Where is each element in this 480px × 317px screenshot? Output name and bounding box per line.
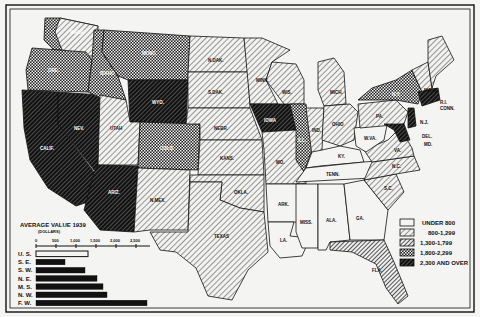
svg-text:CALIF.: CALIF.	[40, 146, 54, 151]
svg-text:IND.: IND.	[312, 128, 321, 133]
legend-swatch-1300-1799	[400, 239, 414, 246]
legend-label: 1,300-1,799	[420, 240, 453, 246]
svg-text:PA.: PA.	[376, 114, 383, 119]
state-ndak	[188, 36, 248, 72]
legend-swatch-2300-over	[400, 259, 414, 266]
farm-value-map: WASH. ORE. CALIF. NEV. IDAHO MONT. WYO. …	[0, 0, 480, 317]
legend-swatch-1800-2299	[400, 249, 414, 256]
svg-text:1,000: 1,000	[70, 238, 81, 243]
svg-text:GA.: GA.	[356, 216, 364, 221]
legend-swatch-under-800	[400, 219, 414, 226]
bar	[36, 267, 85, 273]
svg-text:MASS.: MASS.	[424, 88, 438, 93]
svg-text:MISS.: MISS.	[300, 220, 312, 225]
svg-text:MICH.: MICH.	[330, 90, 343, 95]
legend-label: UNDER 800	[422, 220, 456, 226]
bar-label: N. E.	[18, 276, 32, 282]
svg-text:ARK.: ARK.	[278, 202, 289, 207]
svg-text:IDAHO: IDAHO	[100, 71, 115, 76]
bar	[36, 292, 107, 298]
svg-text:N.J.: N.J.	[420, 120, 428, 125]
svg-text:IOWA: IOWA	[264, 118, 277, 123]
svg-text:2,500: 2,500	[130, 238, 141, 243]
bar	[36, 259, 65, 265]
chart-title: AVERAGE VALUE 1939	[20, 222, 86, 228]
svg-text:FLA.: FLA.	[372, 268, 382, 273]
svg-text:TEXAS: TEXAS	[214, 234, 229, 239]
bar-label: M. S.	[18, 284, 32, 290]
svg-text:1,500: 1,500	[90, 238, 101, 243]
svg-text:ILL.: ILL.	[298, 138, 306, 143]
svg-text:N.MEX.: N.MEX.	[150, 198, 166, 203]
svg-text:LA.: LA.	[280, 238, 287, 243]
svg-text:KY.: KY.	[338, 154, 345, 159]
svg-text:DEL.: DEL.	[422, 134, 432, 139]
svg-text:MO.: MO.	[276, 160, 285, 165]
svg-text:N.DAK.: N.DAK.	[208, 58, 224, 63]
svg-text:WASH.: WASH.	[70, 30, 85, 35]
svg-text:UTAH: UTAH	[110, 126, 122, 131]
svg-text:S.DAK.: S.DAK.	[208, 90, 223, 95]
legend-label: 800-1,299	[428, 230, 456, 236]
chart-subtitle: (DOLLARS)	[38, 229, 61, 234]
svg-text:MINN.: MINN.	[256, 78, 269, 83]
svg-text:MONT.: MONT.	[142, 51, 156, 56]
bar	[36, 284, 103, 290]
svg-text:OKLA.: OKLA.	[234, 190, 248, 195]
bar-label: F. W.	[18, 300, 32, 306]
bar	[36, 300, 147, 306]
svg-text:ORE.: ORE.	[48, 68, 59, 73]
svg-text:ARIZ.: ARIZ.	[108, 190, 120, 195]
svg-text:N.Y.: N.Y.	[392, 92, 400, 97]
svg-text:TENN.: TENN.	[326, 172, 340, 177]
svg-text:NEBR.: NEBR.	[214, 126, 228, 131]
bar-label: S. W.	[18, 267, 33, 273]
svg-text:W.VA.: W.VA.	[364, 136, 376, 141]
svg-text:S.C.: S.C.	[384, 186, 393, 191]
svg-text:COLO.: COLO.	[160, 146, 174, 151]
bar	[36, 251, 88, 257]
svg-text:500: 500	[52, 238, 59, 243]
legend-label: 2,300 AND OVER	[420, 260, 469, 266]
svg-text:2,000: 2,000	[110, 238, 121, 243]
svg-text:CONN.: CONN.	[440, 106, 455, 111]
svg-text:NEV.: NEV.	[74, 126, 84, 131]
legend-swatch-800-1299	[400, 229, 414, 236]
svg-text:R.I.: R.I.	[440, 100, 447, 105]
bar-label: S. E.	[18, 259, 31, 265]
bar-label: N. W.	[18, 292, 33, 298]
bar	[36, 276, 97, 282]
svg-text:WIS.: WIS.	[282, 90, 292, 95]
bar-label: U. S.	[18, 251, 32, 257]
svg-text:OHIO: OHIO	[332, 122, 344, 127]
svg-text:WYO.: WYO.	[152, 100, 164, 105]
svg-text:ALA.: ALA.	[326, 218, 337, 223]
svg-text:N.C.: N.C.	[392, 164, 401, 169]
svg-text:MD.: MD.	[424, 142, 432, 147]
svg-text:KANS.: KANS.	[220, 156, 234, 161]
state-miss	[296, 184, 318, 248]
svg-text:VA.: VA.	[394, 148, 401, 153]
legend-label: 1,800-2,299	[420, 250, 453, 256]
